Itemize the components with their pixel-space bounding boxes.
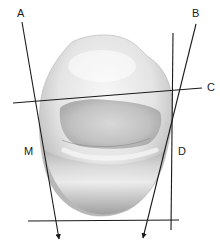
tooth-top-highlight (68, 50, 136, 82)
label-d: D (178, 146, 186, 157)
line-distal-vertical (171, 33, 173, 230)
label-b: B (192, 8, 199, 19)
label-c: C (207, 82, 215, 93)
label-a: A (17, 8, 24, 19)
label-m: M (24, 146, 33, 157)
tooth-fossa (60, 99, 162, 149)
tooth-diagram (0, 0, 220, 250)
line-bottom-horizontal (28, 220, 179, 221)
tooth-crown (39, 35, 172, 216)
